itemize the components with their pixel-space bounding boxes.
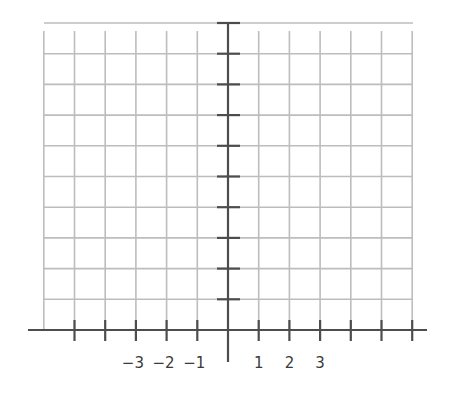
axes <box>28 22 427 362</box>
x-tick-label: −3 <box>122 354 144 372</box>
x-axis-tick-labels: −3 −2 −1 1 2 3 <box>122 354 325 372</box>
x-tick-label: 2 <box>285 354 295 372</box>
x-tick-label: 1 <box>254 354 264 372</box>
x-tick-label: −1 <box>183 354 205 372</box>
coordinate-grid: −3 −2 −1 1 2 3 <box>0 0 455 409</box>
x-tick-label: 3 <box>315 354 325 372</box>
x-tick-label: −2 <box>153 354 175 372</box>
